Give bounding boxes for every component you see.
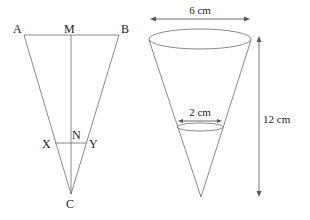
arrow-right-icon xyxy=(217,119,222,123)
label-a: A xyxy=(13,22,22,36)
arrow-left-icon xyxy=(178,119,183,123)
arrow-down-icon xyxy=(257,191,262,197)
arrow-left-icon xyxy=(150,17,156,22)
arrow-up-icon xyxy=(257,36,262,42)
triangle-figure: A M B X N Y C xyxy=(13,22,129,211)
section-diameter-label: 2 cm xyxy=(189,106,211,118)
label-y: Y xyxy=(89,137,98,151)
height-label: 12 cm xyxy=(263,113,291,125)
diagram-canvas: A M B X N Y C 6 cm 2 cm xyxy=(0,0,310,220)
cone-top-ellipse xyxy=(149,29,251,49)
segment-bc xyxy=(71,35,119,194)
height-dimension: 12 cm xyxy=(257,36,291,197)
label-c: C xyxy=(66,197,74,211)
section-diameter-dimension: 2 cm xyxy=(178,106,222,123)
cone-right-slant xyxy=(201,40,251,197)
cone-figure: 6 cm 2 cm 12 cm xyxy=(149,4,291,197)
top-diameter-dimension: 6 cm xyxy=(150,4,250,22)
label-x: X xyxy=(42,137,51,151)
label-n: N xyxy=(72,128,81,142)
arrow-right-icon xyxy=(244,17,250,22)
top-diameter-label: 6 cm xyxy=(189,4,211,16)
cone-left-slant xyxy=(149,40,201,197)
segment-ac xyxy=(24,35,71,194)
label-m: M xyxy=(64,22,75,36)
label-b: B xyxy=(121,22,129,36)
cone-section-ellipse xyxy=(177,123,223,131)
